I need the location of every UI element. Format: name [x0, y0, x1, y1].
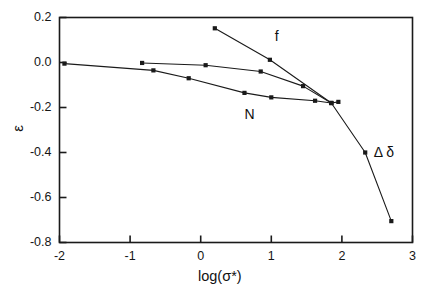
- y-tick-label: 0.2: [34, 10, 51, 24]
- x-axis-title: log(σ*): [198, 268, 242, 284]
- x-tick-label: 2: [322, 249, 362, 263]
- series-label-delta: Δ δ: [374, 144, 394, 160]
- y-tick-label: -0.8: [30, 235, 52, 249]
- series-label-n: N: [244, 106, 254, 122]
- x-tick-label: -2: [40, 249, 80, 263]
- y-tick-label: -0.2: [30, 100, 52, 114]
- x-tick-label: 1: [251, 249, 291, 263]
- chart-figure: 0.20.0-0.2-0.4-0.6-0.8 -2-10123 Δ δNf ε …: [0, 0, 433, 295]
- axis-ticks: [60, 18, 413, 243]
- y-tick-label: -0.4: [30, 145, 52, 159]
- y-axis-title: ε: [9, 125, 26, 132]
- y-tick-label: 0.0: [34, 55, 51, 69]
- y-tick-label: -0.6: [30, 190, 52, 204]
- x-tick-label: 0: [181, 249, 221, 263]
- series-label-f: f: [275, 28, 279, 44]
- x-tick-label: -1: [110, 249, 150, 263]
- axis-frame: [60, 18, 413, 243]
- x-tick-label: 3: [393, 249, 433, 263]
- data-series: [62, 26, 393, 223]
